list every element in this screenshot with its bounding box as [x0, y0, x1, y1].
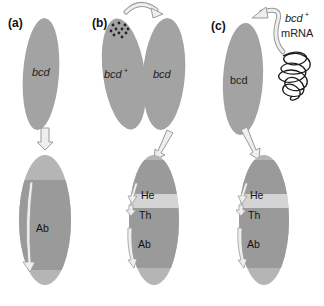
mrna-strand-icon [279, 52, 311, 100]
embryo-label-c: bcd [230, 74, 248, 86]
injected-material-mrna-label: mRNA [281, 27, 314, 39]
down-arrow-icon [37, 128, 53, 150]
region-label-th-c: Th [248, 209, 260, 221]
region-label-th-b: Th [139, 209, 151, 221]
panel-label-b: (b) [92, 16, 107, 30]
region-label-ab-c: Ab [247, 238, 260, 250]
panel-a: (a) bcd Ab [8, 16, 77, 285]
injected-material-label: bcd+ [285, 11, 309, 24]
region-label-ab-b: Ab [138, 238, 151, 250]
panel-b: (b) bcd+ bcd [92, 4, 190, 285]
larva-embryo-b [120, 155, 190, 285]
larva-embryo-a [15, 155, 77, 285]
down-right-arrow-icon [241, 127, 260, 160]
panel-label-a: (a) [8, 16, 23, 30]
panel-label-c: (c) [211, 19, 226, 33]
transfer-arrow-icon [126, 4, 163, 18]
embryo-label-a: bcd [32, 66, 51, 78]
panel-c: (c) bcd bcd+ mRNA He Th [211, 7, 314, 285]
embryo-label-b: bcd [153, 68, 172, 80]
region-label-ab-a: Ab [36, 222, 49, 234]
region-label-he-b: He [141, 189, 155, 201]
larva-embryo-c [230, 155, 300, 285]
region-label-he-c: He [250, 189, 264, 201]
bicoid-experiment-diagram: (a) bcd Ab (b) bcd+ [0, 0, 324, 306]
